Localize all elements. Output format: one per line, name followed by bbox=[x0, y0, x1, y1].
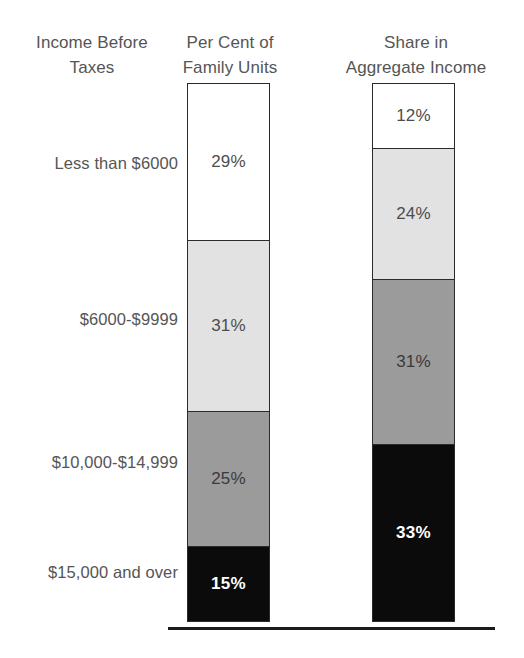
stacked-bar-chart: Income Before Taxes Per Cent of Family U… bbox=[0, 0, 524, 658]
column-header-income-before-taxes: Income Before Taxes bbox=[6, 30, 178, 80]
bar-segment-aggregate-income-10000-14999: 31% bbox=[372, 279, 455, 446]
bar-segment-value-label: 25% bbox=[211, 469, 246, 489]
bar-segment-value-label: 12% bbox=[396, 106, 431, 126]
row-label-10000-14999: $10,000-$14,999 bbox=[0, 453, 178, 472]
bar-segment-value-label: 15% bbox=[211, 574, 246, 594]
row-label-15000-and-over: $15,000 and over bbox=[0, 563, 178, 582]
bar-segment-family-units-6000-9999: 31% bbox=[187, 240, 270, 412]
bar-segment-value-label: 31% bbox=[396, 352, 431, 372]
bar-segment-aggregate-income-less-than-6000: 12% bbox=[372, 83, 455, 149]
bar-segment-value-label: 29% bbox=[211, 152, 246, 172]
bar-segment-family-units-10000-14999: 25% bbox=[187, 411, 270, 548]
column-header-share-in-aggregate-income: Share in Aggregate Income bbox=[322, 30, 510, 80]
bar-segment-value-label: 31% bbox=[211, 316, 246, 336]
row-label-less-than-6000: Less than $6000 bbox=[0, 154, 178, 173]
bar-segment-value-label: 24% bbox=[396, 204, 431, 224]
bar-segment-value-label: 33% bbox=[396, 523, 431, 543]
bar-segment-aggregate-income-6000-9999: 24% bbox=[372, 148, 455, 280]
row-label-6000-9999: $6000-$9999 bbox=[0, 310, 178, 329]
bar-segment-family-units-less-than-6000: 29% bbox=[187, 83, 270, 241]
column-header-per-cent-of-family-units: Per Cent of Family Units bbox=[176, 30, 284, 80]
chart-baseline-rule bbox=[168, 627, 495, 630]
bar-per-cent-of-family-units: 29% 31% 25% 15% bbox=[187, 83, 270, 622]
bar-segment-aggregate-income-15000-and-over: 33% bbox=[372, 444, 455, 622]
bar-segment-family-units-15000-and-over: 15% bbox=[187, 546, 270, 622]
bar-share-in-aggregate-income: 12% 24% 31% 33% bbox=[372, 83, 455, 622]
